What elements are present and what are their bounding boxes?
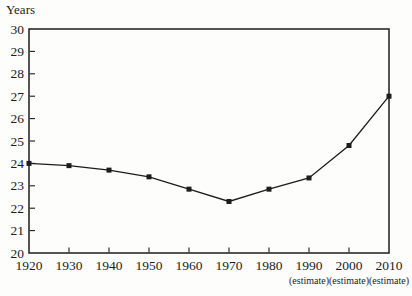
plot-border: [29, 29, 389, 253]
y-tick-label: 29: [11, 44, 25, 59]
y-tick-label: 26: [11, 111, 25, 126]
y-tick-label: 22: [11, 201, 25, 216]
estimate-label: (estimate): [329, 275, 369, 287]
y-axis-title: Years: [6, 2, 35, 17]
x-tick-label: 1980: [256, 258, 283, 273]
y-tick-label: 30: [11, 22, 25, 37]
data-point: [227, 199, 232, 204]
trend-line: [29, 96, 389, 201]
data-point: [307, 175, 312, 180]
data-point: [187, 187, 192, 192]
x-tick-label: 1990: [296, 258, 323, 273]
data-point: [147, 174, 152, 179]
x-tick-label: 1940: [96, 258, 123, 273]
y-tick-label: 25: [11, 134, 25, 149]
data-point: [67, 163, 72, 168]
y-tick-label: 23: [11, 178, 25, 193]
line-chart: Years 2021222324252627282930192019301940…: [0, 0, 412, 296]
data-point: [27, 161, 32, 166]
figure-page: Years 2021222324252627282930192019301940…: [0, 0, 412, 296]
estimate-label: (estimate): [369, 275, 409, 287]
data-point: [387, 94, 392, 99]
data-point: [107, 168, 112, 173]
x-tick-label: 1970: [216, 258, 243, 273]
x-tick-label: 1930: [56, 258, 83, 273]
y-tick-label: 21: [11, 223, 25, 238]
y-tick-label: 27: [11, 89, 25, 104]
data-point: [347, 143, 352, 148]
plot-area: 2021222324252627282930192019301940195019…: [11, 22, 409, 288]
estimate-label: (estimate): [289, 275, 329, 287]
y-tick-label: 24: [11, 156, 25, 171]
y-tick-label: 28: [11, 66, 25, 81]
x-tick-label: 2000: [336, 258, 363, 273]
x-tick-label: 1950: [136, 258, 163, 273]
data-point: [267, 187, 272, 192]
x-tick-label: 1920: [16, 258, 43, 273]
x-tick-label: 1960: [176, 258, 203, 273]
x-tick-label: 2010: [376, 258, 403, 273]
